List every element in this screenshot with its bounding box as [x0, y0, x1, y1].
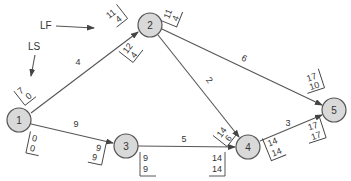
node-2: 2: [138, 13, 162, 37]
box-bottom-value: 4: [170, 14, 181, 22]
box-bottom-value: 17: [310, 129, 323, 142]
node-label: 3: [123, 141, 129, 152]
project-network-diagram: LF LS 4 9 2 6 5 3 11 4 7 0: [0, 0, 351, 181]
edge-duration: 2: [204, 75, 215, 85]
edge-duration: 5: [181, 134, 186, 144]
node-label: 5: [331, 105, 337, 116]
ls-annotation: LS: [28, 41, 41, 76]
node-5: 5: [322, 98, 346, 122]
box-bottom-value: 6: [223, 133, 234, 143]
time-box-e45-start: 14 14: [262, 132, 286, 160]
edge-line: [138, 146, 235, 147]
ls-pointer-arrow: [31, 55, 35, 76]
lf-pointer-arrow: [56, 26, 94, 28]
edge-2-4: 2: [158, 35, 239, 137]
time-box-e24-start: 12 4: [119, 39, 144, 63]
edge-duration: 9: [73, 119, 78, 129]
box-bottom-value: 14: [212, 164, 222, 174]
time-box-e34-start: 9 9: [140, 152, 156, 176]
box-bottom-value: 10: [308, 80, 321, 93]
time-box-e34-end: 14 14: [209, 152, 225, 176]
time-box-e12-start: 7 0: [13, 82, 36, 106]
node-3: 3: [114, 134, 138, 158]
box-bottom-value: 4: [128, 50, 139, 60]
lf-annotation: LF: [40, 20, 94, 31]
edge-line: [162, 29, 322, 105]
box-top-value: 14: [212, 153, 222, 163]
box-top-value: 9: [143, 153, 148, 163]
edge-duration: 6: [240, 53, 249, 64]
edge-line: [31, 124, 113, 143]
time-box-e13-start: 0 0: [26, 131, 43, 155]
node-label: 2: [147, 20, 153, 31]
edge-duration: 3: [285, 118, 290, 128]
box-bottom-value: 9: [91, 152, 98, 163]
node-label: 1: [16, 115, 22, 126]
time-box-e12-end: 11 4: [104, 4, 128, 28]
node-label: 4: [245, 142, 251, 153]
time-box-e25-end: 17 10: [301, 69, 324, 94]
node-4: 4: [236, 135, 260, 159]
edge-2-5: 6: [162, 29, 322, 105]
lf-label: LF: [40, 20, 52, 31]
edge-1-3: 9: [31, 119, 113, 143]
node-1: 1: [7, 108, 31, 132]
box-bottom-value: 0: [29, 143, 36, 154]
edge-duration: 4: [75, 57, 80, 67]
edge-1-2: 4: [31, 32, 138, 113]
box-bottom-value: 9: [143, 164, 148, 174]
time-box-e13-end: 9 9: [88, 141, 106, 165]
edge-line: [158, 35, 239, 137]
time-box-e25-start: 11 4: [160, 5, 184, 27]
ls-label: LS: [28, 41, 41, 52]
edge-line: [31, 32, 138, 113]
time-box-e45-end: 17 17: [302, 117, 326, 143]
time-box-e24-end: 14 6: [213, 123, 238, 147]
